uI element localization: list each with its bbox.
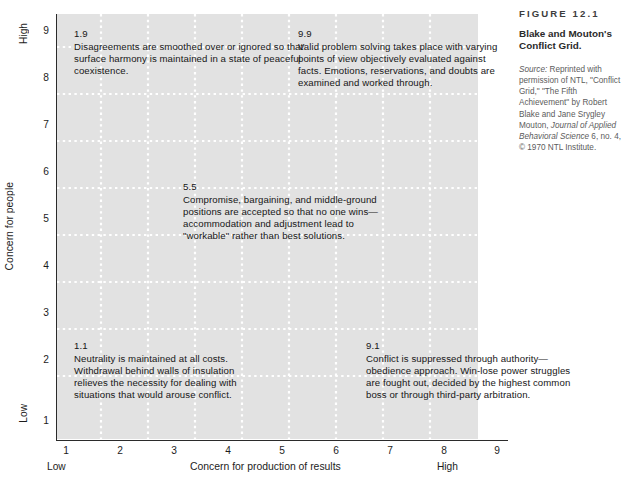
y-tick-1: 1 bbox=[38, 415, 54, 426]
y-tick-6: 6 bbox=[38, 166, 54, 177]
y-axis-title: Concern for people bbox=[4, 182, 15, 270]
x-axis-high-label: High bbox=[437, 461, 458, 472]
x-tick-9: 9 bbox=[489, 445, 505, 456]
grid-cell-text: Neutrality is maintained at all costs. W… bbox=[74, 353, 264, 401]
x-axis-line bbox=[56, 440, 508, 441]
figure-number: FIGURE 12.1 bbox=[519, 8, 627, 19]
grid-cell-text: Compromise, bargaining, and middle-groun… bbox=[183, 194, 398, 242]
grid-cell-5-5: 5.5 Compromise, bargaining, and middle-g… bbox=[183, 181, 398, 242]
grid-cell-9-1: 9.1 Conflict is suppressed through autho… bbox=[366, 340, 571, 401]
x-tick-6: 6 bbox=[328, 445, 344, 456]
y-tick-7: 7 bbox=[38, 119, 54, 130]
x-axis-low-label: Low bbox=[47, 461, 66, 472]
grid-cell-9-9: 9.9 Valid problem solving takes place wi… bbox=[298, 28, 504, 89]
x-tick-8: 8 bbox=[436, 445, 452, 456]
y-tick-8: 8 bbox=[38, 72, 54, 83]
source-lead: Source: bbox=[519, 65, 547, 74]
x-tick-4: 4 bbox=[220, 445, 236, 456]
grid-cell-code: 1.1 bbox=[74, 340, 264, 352]
grid-cell-text: Disagreements are smoothed over or ignor… bbox=[74, 41, 312, 77]
grid-cell-code: 1.9 bbox=[74, 28, 312, 40]
conflict-grid-plot: 1.9 Disagreements are smoothed over or i… bbox=[57, 14, 478, 439]
grid-cell-code: 9.9 bbox=[298, 28, 504, 40]
y-tick-3: 3 bbox=[38, 307, 54, 318]
grid-cell-1-1: 1.1 Neutrality is maintained at all cost… bbox=[74, 340, 264, 401]
x-axis-title: Concern for production of results bbox=[190, 461, 341, 472]
y-tick-4: 4 bbox=[38, 260, 54, 271]
figure-title: Blake and Mouton's Conflict Grid. bbox=[519, 28, 627, 53]
grid-cell-1-9: 1.9 Disagreements are smoothed over or i… bbox=[74, 28, 312, 77]
grid-cell-text: Valid problem solving takes place with v… bbox=[298, 41, 504, 89]
figure-container: 1.9 Disagreements are smoothed over or i… bbox=[0, 0, 631, 496]
y-axis-high-label: High bbox=[18, 23, 29, 44]
figure-caption: FIGURE 12.1 Blake and Mouton's Conflict … bbox=[519, 8, 627, 153]
x-tick-5: 5 bbox=[274, 445, 290, 456]
x-tick-1: 1 bbox=[58, 445, 74, 456]
y-axis-low-label: Low bbox=[18, 404, 29, 423]
x-tick-7: 7 bbox=[382, 445, 398, 456]
grid-cell-text: Conflict is suppressed through authority… bbox=[366, 353, 571, 401]
grid-cell-code: 9.1 bbox=[366, 340, 571, 352]
y-tick-9: 9 bbox=[38, 25, 54, 36]
y-tick-2: 2 bbox=[38, 354, 54, 365]
y-tick-5: 5 bbox=[38, 213, 54, 224]
x-tick-2: 2 bbox=[112, 445, 128, 456]
y-axis-line bbox=[56, 14, 57, 441]
grid-cell-code: 5.5 bbox=[183, 181, 398, 193]
figure-source-note: Source: Reprinted with permission of NTL… bbox=[519, 64, 627, 154]
x-tick-3: 3 bbox=[166, 445, 182, 456]
